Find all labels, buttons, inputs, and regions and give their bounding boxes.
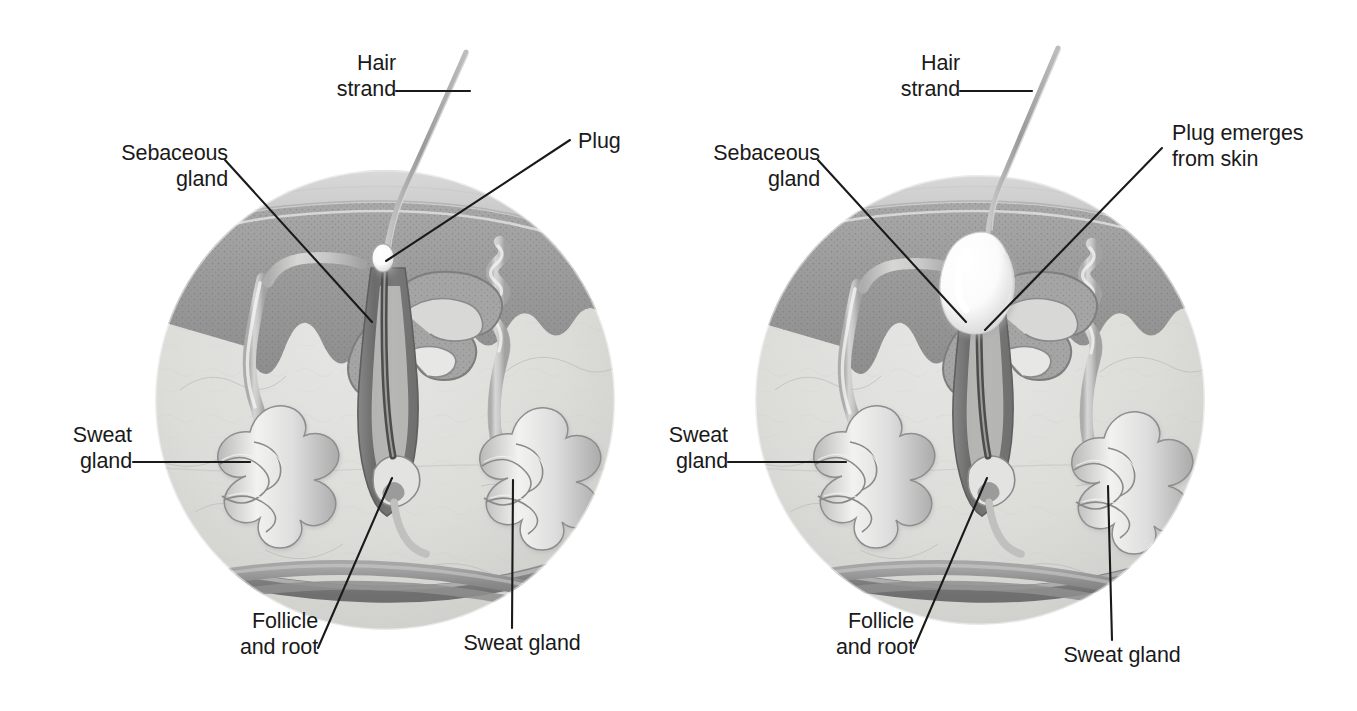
label-follicle-and-root-right: Follicle and root: [762, 608, 914, 660]
label-plug-emerges-from-skin: Plug emerges from skin: [1172, 120, 1352, 172]
label-hair-strand-left: Hair strand: [286, 50, 396, 102]
leader-sweat-gland-right-left: [512, 480, 513, 628]
label-sweat-gland-right-left: Sweat gland: [442, 630, 602, 656]
label-sweat-gland-right-right: Sweat gland: [1042, 642, 1202, 668]
label-sweat-gland-left-right: Sweat gland: [618, 422, 728, 474]
label-sebaceous-gland-left: Sebaceous gland: [60, 140, 228, 192]
label-hair-strand-right: Hair strand: [850, 50, 960, 102]
diagram-canvas: Hair strand Sebaceous gland Plug Sweat g…: [0, 0, 1357, 711]
label-sweat-gland-left-left: Sweat gland: [22, 422, 132, 474]
label-follicle-and-root-left: Follicle and root: [166, 608, 318, 660]
skin-cross-section-illustration: [0, 0, 1357, 711]
right-panel-illustration: [730, 48, 1230, 650]
label-sebaceous-gland-right: Sebaceous gland: [652, 140, 820, 192]
